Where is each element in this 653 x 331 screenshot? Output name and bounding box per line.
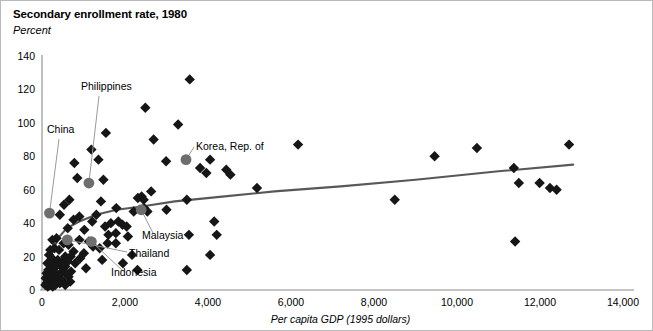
y-axis-tick-label: 20	[23, 251, 35, 263]
data-point[interactable]	[101, 128, 111, 138]
x-axis-tick-label: 14,000	[607, 296, 639, 308]
data-point[interactable]	[252, 183, 262, 193]
data-point[interactable]	[148, 134, 158, 144]
data-point[interactable]	[98, 174, 108, 184]
data-point[interactable]	[534, 178, 544, 188]
chart-figure: Secondary enrollment rate, 1980 Percent …	[0, 0, 653, 331]
x-axis-tick-label: 8,000	[361, 296, 387, 308]
x-axis-tick-label: 0	[39, 296, 45, 308]
data-point[interactable]	[140, 103, 150, 113]
data-point[interactable]	[514, 178, 524, 188]
y-axis-tick-label: 80	[23, 150, 35, 162]
y-axis-tick-label: 60	[23, 184, 35, 196]
highlighted-data-point[interactable]	[86, 236, 97, 247]
data-point[interactable]	[111, 238, 121, 248]
data-point-label: Korea, Rep. of	[196, 140, 264, 152]
data-point-label: Malaysia	[142, 229, 184, 241]
x-axis-tick-label: 2,000	[112, 296, 138, 308]
data-point-label: China	[47, 123, 75, 135]
data-point[interactable]	[205, 154, 215, 164]
data-point[interactable]	[564, 139, 574, 149]
highlighted-data-point[interactable]	[83, 178, 94, 189]
data-point[interactable]	[212, 230, 222, 240]
data-point[interactable]	[182, 265, 192, 275]
data-point-label: Indonesia	[111, 266, 157, 278]
highlighted-data-point[interactable]	[181, 154, 192, 165]
label-leader-line	[49, 139, 59, 213]
data-point[interactable]	[209, 216, 219, 226]
data-point[interactable]	[97, 255, 107, 265]
data-point[interactable]	[293, 139, 303, 149]
data-point[interactable]	[429, 151, 439, 161]
y-axis-tick-label: 100	[17, 117, 35, 129]
data-point[interactable]	[161, 156, 171, 166]
data-point[interactable]	[69, 158, 79, 168]
data-point[interactable]	[96, 196, 106, 206]
data-point[interactable]	[86, 144, 96, 154]
data-point[interactable]	[93, 154, 103, 164]
data-point[interactable]	[509, 163, 519, 173]
data-point[interactable]	[79, 225, 89, 235]
data-point[interactable]	[390, 195, 400, 205]
y-axis-tick-label: 0	[29, 284, 35, 296]
data-point[interactable]	[111, 228, 121, 238]
data-point[interactable]	[161, 205, 171, 215]
data-point-label: Thailand	[129, 247, 169, 259]
data-point[interactable]	[123, 231, 133, 241]
x-axis-tick-label: 6,000	[278, 296, 304, 308]
highlighted-data-point[interactable]	[44, 208, 55, 219]
data-point[interactable]	[72, 173, 82, 183]
data-point[interactable]	[182, 195, 192, 205]
data-point[interactable]	[173, 119, 183, 129]
data-point-label: Philippines	[81, 80, 132, 92]
highlighted-data-point[interactable]	[62, 234, 73, 245]
x-axis-tick-label: 10,000	[441, 296, 473, 308]
y-axis-tick-label: 120	[17, 83, 35, 95]
label-leader-line	[89, 96, 99, 183]
x-axis-tick-label: 4,000	[195, 296, 221, 308]
data-point[interactable]	[472, 143, 482, 153]
data-point[interactable]	[55, 210, 65, 220]
data-point[interactable]	[146, 186, 156, 196]
y-axis-tick-label: 140	[17, 50, 35, 62]
highlighted-data-point[interactable]	[136, 204, 147, 215]
x-axis-title: Per capita GDP (1995 dollars)	[1, 313, 652, 325]
data-point[interactable]	[205, 250, 215, 260]
data-point[interactable]	[185, 74, 195, 84]
data-point[interactable]	[510, 236, 520, 246]
data-point[interactable]	[184, 230, 194, 240]
y-axis-tick-label: 40	[23, 217, 35, 229]
scatter-plot: 02040608010012014002,0004,0006,0008,0001…	[1, 1, 653, 331]
x-axis-tick-label: 12,000	[524, 296, 556, 308]
data-point[interactable]	[81, 263, 91, 273]
